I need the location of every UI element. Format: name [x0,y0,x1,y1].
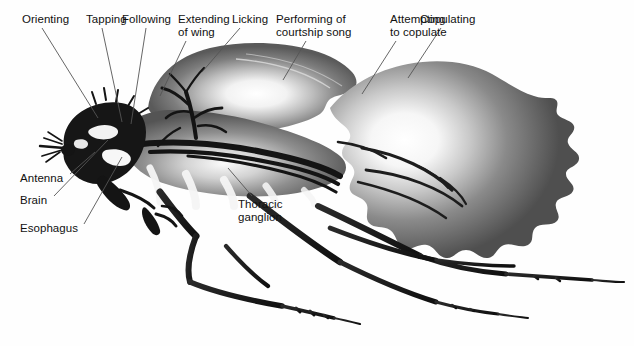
figure-container: OrientingTappingFollowingExtending of wi… [0,0,634,346]
foreleg-tarsus [142,206,182,235]
head-shape [40,88,154,210]
anatomy_labels-label-antenna: Antenna [20,172,63,185]
fly-anatomy-illustration [0,0,634,346]
behavior_labels-label-extending-of-wing: Extending of wing [178,13,230,38]
behavior_labels-label-tapping: Tapping [86,13,127,26]
behavior_labels-label-licking: Licking [232,13,268,26]
anatomy_labels-label-thoracic-ganglion: Thoracic ganglion [238,198,283,223]
behavior_labels-label-performing-song: Performing of courtship song [276,13,352,38]
behavior_labels-label-copulating: Copulating [420,13,475,26]
leader-line-orienting [42,28,98,118]
behavior_labels-label-orienting: Orienting [22,13,69,26]
anatomy_labels-label-esophagus: Esophagus [20,222,78,235]
anatomy_labels-label-brain: Brain [20,194,47,207]
behavior_labels-label-following: Following [122,13,171,26]
